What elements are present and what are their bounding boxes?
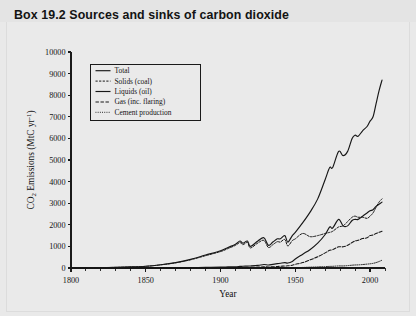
y-tick-label: 1000 xyxy=(49,242,65,251)
x-tick-label: 1850 xyxy=(138,276,154,285)
y-tick-label: 7000 xyxy=(49,113,65,122)
y-tick-label: 6000 xyxy=(49,134,65,143)
legend-label-5: Cement production xyxy=(115,108,172,117)
y-tick-label: 3000 xyxy=(49,199,65,208)
x-tick-label: 1900 xyxy=(212,276,228,285)
y-axis-title: CO2 Emissions (MtC yr-1) xyxy=(25,110,38,209)
figure-page: Box 19.2 Sources and sinks of carbon dio… xyxy=(0,0,416,316)
y-tick-label: 4000 xyxy=(49,178,65,187)
y-tick-label: 2000 xyxy=(49,221,65,230)
x-tick-label: 1950 xyxy=(287,276,303,285)
y-tick-label: 10000 xyxy=(45,48,65,57)
legend-label-4: Gas (inc. flaring) xyxy=(115,97,166,106)
legend-label-1: Total xyxy=(115,66,130,75)
x-tick-label: 2000 xyxy=(362,276,378,285)
series-gas-inc-flaring xyxy=(71,231,382,268)
emissions-line-chart: 0100020003000400050006000700080009000100… xyxy=(0,0,416,316)
y-tick-label: 8000 xyxy=(49,91,65,100)
x-tick-label: 1800 xyxy=(63,276,79,285)
y-tick-label: 0 xyxy=(61,264,65,273)
y-tick-label: 5000 xyxy=(49,156,65,165)
legend-label-3: Liquids (oil) xyxy=(115,87,153,96)
y-tick-label: 9000 xyxy=(49,70,65,79)
series-solids-coal xyxy=(71,199,382,268)
series-liquids-oil xyxy=(71,202,382,268)
x-axis-title: Year xyxy=(219,289,237,299)
legend-label-2: Solids (coal) xyxy=(115,77,153,86)
